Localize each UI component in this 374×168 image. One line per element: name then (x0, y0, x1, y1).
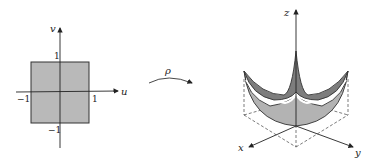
v-axis-label: v (50, 23, 56, 34)
x-axis (249, 126, 296, 147)
u-tick-positive: 1 (92, 94, 98, 104)
v-tick-negative: −1 (48, 125, 61, 135)
mapping-label: ρ (164, 65, 171, 76)
y-axis-label: y (354, 147, 361, 158)
x-axis-label: x (238, 142, 244, 153)
v-tick-positive: 1 (54, 51, 60, 61)
z-axis-label: z (283, 7, 290, 18)
surface-diagram: z x y (238, 7, 361, 158)
mapping-arrow-group: ρ (149, 65, 192, 83)
u-tick-negative: −1 (17, 94, 30, 104)
u-axis-label: u (121, 86, 127, 97)
mapping-arrow (149, 78, 192, 83)
domain-square-diagram: u v 1 −1 1 −1 (16, 23, 127, 148)
figure: u v 1 −1 1 −1 ρ z x y (0, 0, 374, 168)
y-axis (296, 126, 353, 147)
